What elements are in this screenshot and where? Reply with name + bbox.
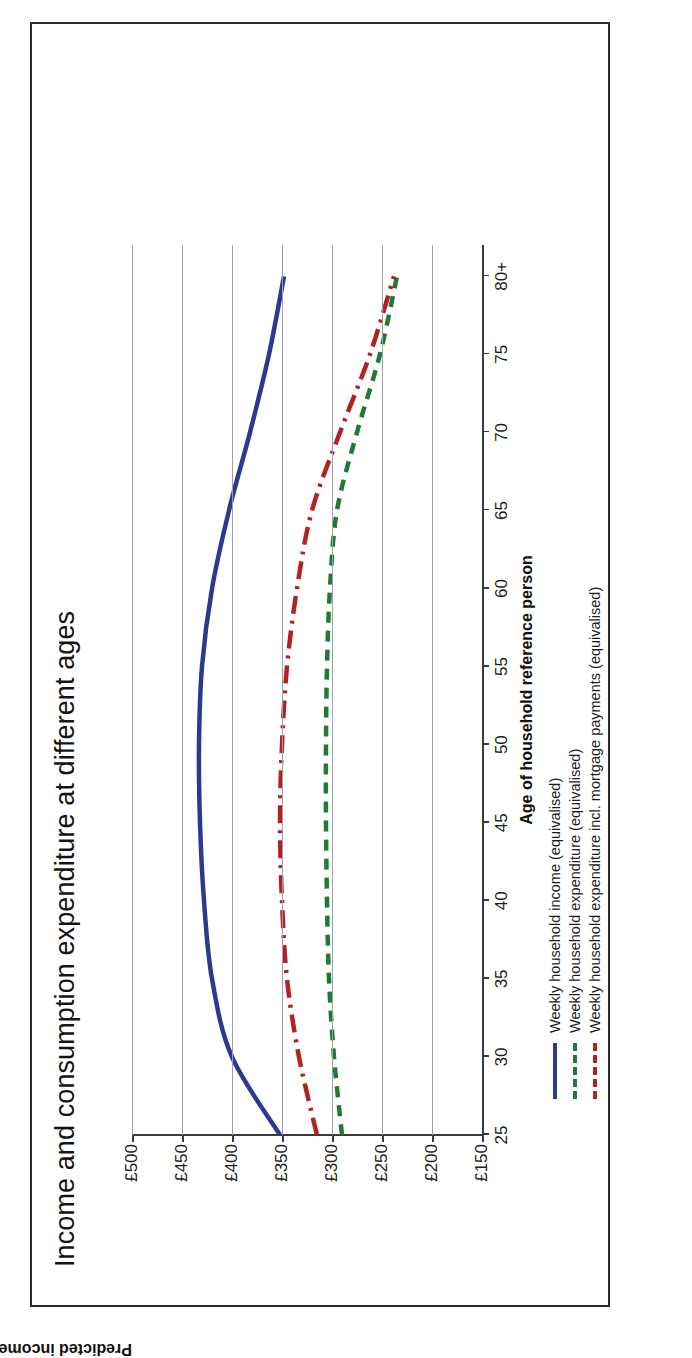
y-axis-tick-label: £450	[172, 1144, 192, 1182]
x-axis-line	[482, 245, 484, 1135]
x-axis-tick-label: 70	[492, 422, 512, 441]
x-axis-title: Age of household reference person	[518, 245, 536, 1135]
legend-swatch-3	[593, 1043, 597, 1099]
x-axis-tick-label: 80+	[492, 261, 512, 290]
legend-swatch-1	[553, 1043, 557, 1099]
y-axis-tick	[482, 1135, 484, 1142]
y-axis-tick	[382, 1135, 384, 1142]
x-axis-tick	[482, 587, 489, 589]
x-axis-tick-label: 55	[492, 657, 512, 676]
chart-figure: Income and consumption expenditure at di…	[40, 45, 600, 1285]
legend-item[interactable]: Weekly household expenditure (equivalise…	[566, 586, 583, 1098]
chart-legend: Weekly household income (equivalised)Wee…	[546, 586, 603, 1098]
x-axis-tick	[482, 430, 489, 432]
x-axis-tick	[482, 352, 489, 354]
x-axis-tick-label: 50	[492, 735, 512, 754]
y-axis-title: Predicted income and consumption (2013 p…	[0, 1336, 132, 1358]
legend-label: Weekly household expenditure incl. mortg…	[587, 586, 603, 1032]
x-axis-tick	[482, 1133, 489, 1135]
y-axis-tick-label: £250	[372, 1144, 392, 1182]
x-axis-tick-label: 35	[492, 969, 512, 988]
gridline	[432, 245, 433, 1135]
x-axis-tick	[482, 821, 489, 823]
legend-label: Weekly household expenditure (equivalise…	[567, 748, 583, 1032]
x-axis-tick	[482, 977, 489, 979]
series-line-1	[199, 276, 284, 1135]
y-axis-tick	[232, 1135, 234, 1142]
y-axis-tick-label: £300	[322, 1144, 342, 1182]
legend-item[interactable]: Weekly household expenditure incl. mortg…	[586, 586, 603, 1098]
legend-swatch-2	[573, 1043, 577, 1099]
x-axis-tick-label: 45	[492, 813, 512, 832]
x-axis-tick	[482, 665, 489, 667]
chart-title: Income and consumption expenditure at di…	[50, 610, 81, 1266]
y-axis-tick-label: £400	[222, 1144, 242, 1182]
y-axis-tick	[332, 1135, 334, 1142]
y-axis-tick-label: £200	[422, 1144, 442, 1182]
y-axis-tick	[132, 1135, 134, 1142]
rotated-figure-container: Income and consumption expenditure at di…	[40, 45, 600, 1285]
x-axis-tick-label: 40	[492, 891, 512, 910]
y-axis-tick	[182, 1135, 184, 1142]
x-axis-tick-label: 60	[492, 579, 512, 598]
series-plot	[132, 245, 482, 1135]
x-axis-tick-label: 25	[492, 1125, 512, 1144]
x-axis-tick	[482, 899, 489, 901]
x-axis-tick-label: 30	[492, 1047, 512, 1066]
y-axis-tick-label: £500	[122, 1144, 142, 1182]
y-axis-tick-label: £350	[272, 1144, 292, 1182]
scanned-page-frame: Income and consumption expenditure at di…	[30, 22, 610, 1307]
plot-area: £500£450£400£350£300£250£200£150	[132, 245, 482, 1135]
gridline	[332, 245, 333, 1135]
x-axis-tick	[482, 743, 489, 745]
x-axis-tick	[482, 508, 489, 510]
y-axis-tick	[282, 1135, 284, 1142]
gridline	[282, 245, 283, 1135]
legend-item[interactable]: Weekly household income (equivalised)	[546, 586, 563, 1098]
gridline	[382, 245, 383, 1135]
gridline	[232, 245, 233, 1135]
x-axis-tick-label: 65	[492, 500, 512, 519]
legend-label: Weekly household income (equivalised)	[547, 777, 563, 1032]
gridline	[132, 245, 133, 1135]
series-line-2	[326, 276, 397, 1135]
y-axis-tick-label: £150	[472, 1144, 492, 1182]
x-axis-tick	[482, 274, 489, 276]
x-axis-tick	[482, 1055, 489, 1057]
y-axis-tick	[432, 1135, 434, 1142]
series-line-3	[280, 276, 394, 1135]
x-axis-tick-label: 75	[492, 344, 512, 363]
gridline	[182, 245, 183, 1135]
